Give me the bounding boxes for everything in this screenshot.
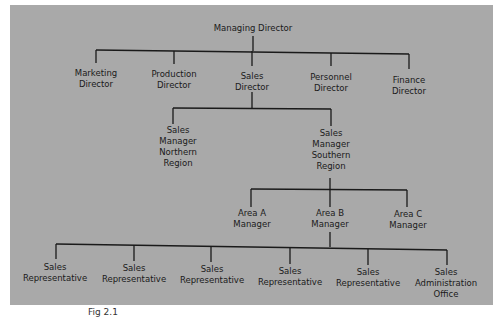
org-node-r2: SalesRepresentative: [102, 263, 166, 285]
node-label-line: Manager: [233, 219, 270, 230]
node-label-line: Region: [159, 158, 197, 169]
node-label-line: Representative: [336, 278, 400, 289]
connector-ab-bus: [56, 244, 447, 250]
org-node-smn: SalesManagerNorthernRegion: [159, 125, 197, 169]
node-label-line: Production: [151, 69, 196, 80]
connector-sales-bus: [173, 108, 331, 109]
node-label-line: Area B: [311, 208, 348, 219]
node-label-line: Sales: [415, 267, 477, 278]
node-label-line: Manager: [311, 219, 348, 230]
node-label-line: Representative: [258, 277, 322, 288]
node-label-line: Director: [235, 82, 269, 93]
node-label-line: Representative: [23, 273, 87, 284]
node-label-line: Manager: [159, 136, 197, 147]
org-node-r3: SalesRepresentative: [180, 264, 244, 286]
org-node-fin: FinanceDirector: [392, 75, 426, 97]
connector-sms-bus: [251, 189, 407, 190]
node-label-line: Area A: [233, 208, 270, 219]
node-label-line: Managing Director: [214, 23, 293, 34]
node-label-line: Director: [151, 80, 196, 91]
org-node-pers: PersonnelDirector: [310, 72, 352, 94]
node-label-line: Director: [310, 83, 352, 94]
node-label-line: Director: [75, 79, 117, 90]
org-node-md: Managing Director: [214, 23, 293, 34]
node-label-line: Director: [392, 86, 426, 97]
node-label-line: Northern: [159, 147, 197, 158]
node-label-line: Marketing: [75, 68, 117, 79]
figure-caption: Fig 2.1: [88, 308, 118, 317]
node-label-line: Sales: [312, 128, 351, 139]
org-node-ab: Area BManager: [311, 208, 348, 230]
org-node-mkt: MarketingDirector: [75, 68, 117, 90]
org-node-r5: SalesRepresentative: [336, 267, 400, 289]
org-node-sales: SalesDirector: [235, 71, 269, 93]
org-node-r4: SalesRepresentative: [258, 266, 322, 288]
node-label-line: Sales: [258, 266, 322, 277]
node-label-line: Representative: [180, 275, 244, 286]
node-label-line: Administration: [415, 278, 477, 289]
node-label-line: Sales: [336, 267, 400, 278]
org-node-sao: SalesAdministrationOffice: [415, 267, 477, 300]
node-label-line: Sales: [235, 71, 269, 82]
org-node-ac: Area CManager: [389, 209, 426, 231]
node-label-line: Region: [312, 161, 351, 172]
node-label-line: Sales: [23, 262, 87, 273]
org-node-r1: SalesRepresentative: [23, 262, 87, 284]
node-label-line: Sales: [159, 125, 197, 136]
node-label-line: Area C: [389, 209, 426, 220]
node-label-line: Representative: [102, 274, 166, 285]
node-label-line: Manager: [312, 139, 351, 150]
node-label-line: Finance: [392, 75, 426, 86]
node-label-line: Southern: [312, 150, 351, 161]
org-node-sms: SalesManagerSouthernRegion: [312, 128, 351, 172]
node-label-line: Office: [415, 289, 477, 300]
org-node-aa: Area AManager: [233, 208, 270, 230]
node-label-line: Sales: [102, 263, 166, 274]
org-node-prod: ProductionDirector: [151, 69, 196, 91]
node-label-line: Personnel: [310, 72, 352, 83]
node-label-line: Sales: [180, 264, 244, 275]
node-label-line: Manager: [389, 220, 426, 231]
